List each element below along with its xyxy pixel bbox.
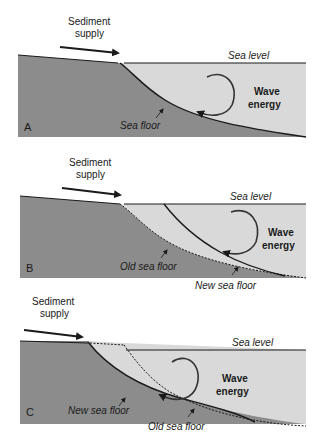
old-sea-floor-label: Old sea floor: [148, 421, 205, 432]
sediment-label-line2: supply: [75, 28, 104, 39]
sea-floor-label: Sea floor: [120, 120, 161, 131]
wave-label-line2: energy: [248, 99, 281, 110]
sediment-arrow-icon: [62, 188, 120, 195]
sediment-arrow-icon: [60, 47, 118, 53]
old-sea-floor-label: Old sea floor: [120, 261, 177, 272]
sediment-label-line1: Sediment: [32, 296, 74, 307]
sea-floor-diagram: Sediment supply Sea level Wave energy Se…: [0, 0, 327, 444]
panel-a: Sediment supply Sea level Wave energy Se…: [18, 16, 306, 137]
sea-level-label: Sea level: [230, 191, 272, 202]
wave-label-line2: energy: [262, 240, 295, 251]
sea-level-label: Sea level: [232, 337, 274, 348]
wave-label-line1: Wave: [222, 373, 248, 384]
wave-label-line1: Wave: [268, 227, 294, 238]
wave-label-line2: energy: [216, 386, 249, 397]
sediment-label-line1: Sediment: [68, 16, 110, 27]
panel-letter: C: [26, 406, 34, 418]
panel-c: Sediment supply Sea level Wave energy Ne…: [20, 296, 306, 432]
panel-b: Sediment supply Sea level Wave energy Ol…: [20, 157, 306, 291]
panel-letter: A: [24, 121, 32, 133]
sediment-label-line1: Sediment: [69, 157, 111, 168]
sediment-arrow-icon: [24, 330, 82, 337]
new-sea-floor-label: New sea floor: [195, 280, 257, 291]
new-sea-floor-label: New sea floor: [68, 405, 130, 416]
sea-level-label: Sea level: [228, 50, 270, 61]
wave-label-line1: Wave: [254, 86, 280, 97]
panel-letter: B: [26, 262, 33, 274]
sediment-label-line2: supply: [76, 169, 105, 180]
sediment-label-line2: supply: [40, 308, 69, 319]
